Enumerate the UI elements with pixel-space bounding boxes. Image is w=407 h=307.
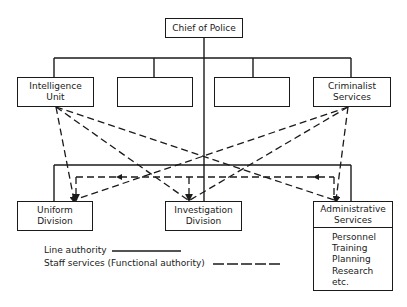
admin-item: Personnel	[332, 232, 392, 243]
blank-staff-box-2	[214, 77, 290, 107]
investigation-division-label-2: Division	[186, 216, 222, 227]
investigation-division-box: Investigation Division	[165, 201, 242, 231]
criminalist-services-label-1: Criminalist	[328, 81, 376, 92]
legend-line-authority: Line authority	[44, 245, 107, 256]
legend-staff-services: Staff services (Functional authority)	[44, 258, 205, 269]
administrative-services-label-2: Services	[314, 215, 392, 226]
intelligence-unit-label-2: Unit	[46, 92, 64, 103]
administrative-services-label-1: Administrative	[314, 204, 392, 215]
blank-staff-box-1	[117, 77, 193, 107]
administrative-services-box: Administrative Services Personnel Traini…	[313, 201, 393, 291]
criminalist-services-label-2: Services	[333, 92, 371, 103]
intelligence-unit-box: Intelligence Unit	[17, 77, 94, 107]
uniform-division-label-1: Uniform	[37, 205, 73, 216]
administrative-services-header: Administrative Services	[314, 202, 392, 228]
intelligence-unit-label-1: Intelligence	[29, 81, 81, 92]
investigation-division-label-1: Investigation	[174, 205, 232, 216]
admin-item: etc.	[332, 277, 392, 288]
chief-of-police-box: Chief of Police	[165, 18, 243, 38]
administrative-services-list: Personnel Training Planning Research etc…	[314, 228, 392, 288]
admin-item: Research	[332, 266, 392, 277]
criminalist-services-box: Criminalist Services	[313, 77, 391, 107]
uniform-division-label-2: Division	[37, 216, 73, 227]
uniform-division-box: Uniform Division	[17, 201, 93, 231]
chief-of-police-label: Chief of Police	[172, 23, 236, 34]
admin-item: Training	[332, 243, 392, 254]
admin-item: Planning	[332, 254, 392, 265]
